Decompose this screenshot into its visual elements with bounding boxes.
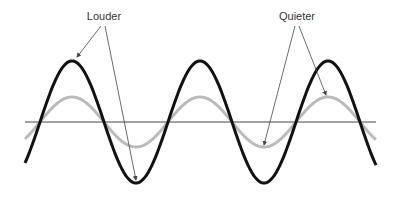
louder-pointer-trough	[105, 26, 136, 180]
louder-pointer-peak	[77, 26, 101, 57]
waveform-diagram	[0, 0, 393, 197]
quieter-pointer-peak	[299, 26, 326, 95]
